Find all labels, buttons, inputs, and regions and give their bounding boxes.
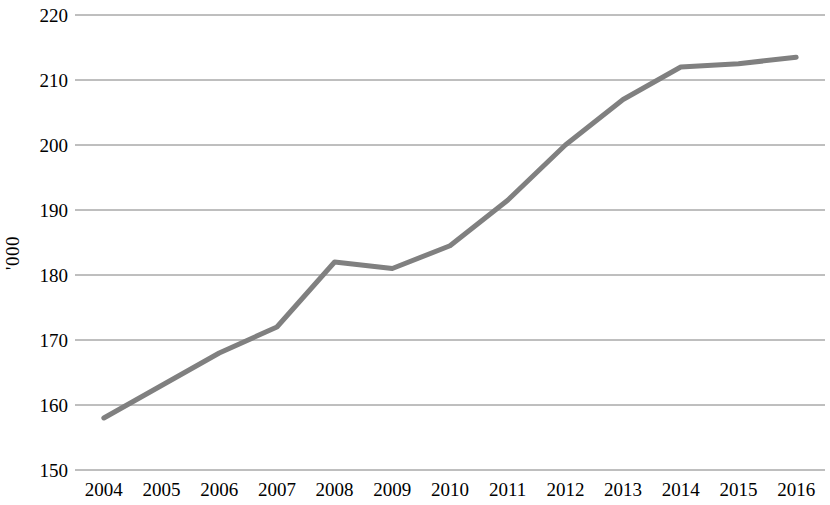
x-axis-tick-label: 2012 — [535, 478, 595, 502]
x-axis-tick-label: 2005 — [132, 478, 192, 502]
x-axis-tick-label: 2009 — [362, 478, 422, 502]
x-axis-tick-label: 2011 — [478, 478, 538, 502]
x-axis-tick-label: 2014 — [651, 478, 711, 502]
gridlines — [75, 15, 825, 470]
plot-svg — [0, 0, 830, 505]
x-axis-tick-label: 2006 — [189, 478, 249, 502]
data-line — [104, 57, 796, 418]
plot-area — [0, 0, 830, 505]
line-chart: '000 220210200190180170160150 2004200520… — [0, 0, 830, 505]
data-series-group — [104, 57, 796, 418]
x-axis-tick-label: 2008 — [305, 478, 365, 502]
x-axis-tick-label: 2010 — [420, 478, 480, 502]
x-axis-tick-label: 2016 — [766, 478, 826, 502]
x-axis-tick-label: 2007 — [247, 478, 307, 502]
x-axis-tick-label: 2015 — [708, 478, 768, 502]
x-axis-tick-labels: 2004200520062007200820092010201120122013… — [0, 478, 830, 505]
x-axis-tick-label: 2004 — [74, 478, 134, 502]
x-axis-tick-label: 2013 — [593, 478, 653, 502]
